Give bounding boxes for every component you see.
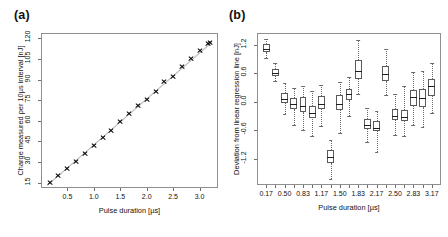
whisker-lower (377, 131, 378, 151)
whisker-lower (331, 163, 332, 179)
whisker-cap-upper (384, 49, 388, 50)
data-point (144, 96, 150, 102)
median-line (318, 104, 325, 105)
data-point (117, 118, 123, 124)
panel-a-label: (a) (14, 8, 30, 22)
boxplot (272, 0, 279, 237)
median-line (364, 125, 371, 126)
whisker-cap-lower (292, 125, 296, 126)
median-line (410, 97, 417, 98)
whisker-cap-upper (329, 140, 333, 141)
data-point (91, 142, 97, 148)
boxplot (419, 0, 426, 237)
whisker-upper (340, 82, 341, 95)
whisker-upper (404, 86, 405, 110)
box-iqr (401, 110, 408, 121)
whisker-cap-lower (310, 136, 314, 137)
box-iqr (428, 79, 435, 96)
median-line (392, 116, 399, 117)
median-line (281, 99, 288, 100)
panel-a-x-tick-label: 2.5 (168, 193, 178, 200)
boxplot (410, 0, 417, 237)
panel-b-y-tickmark (254, 73, 257, 74)
data-point (170, 73, 176, 79)
panel-a-y-tickmark (38, 183, 41, 184)
median-line (327, 157, 334, 158)
panel-b-y-tickmark (254, 159, 257, 160)
whisker-upper (367, 108, 368, 119)
whisker-cap-lower (412, 125, 416, 126)
panel-b-y-tickmark (254, 102, 257, 103)
median-line (336, 104, 343, 105)
whisker-lower (423, 107, 424, 127)
whisker-upper (285, 83, 286, 93)
median-line (373, 128, 380, 129)
panel-b-y-axis-title: Deviation from linear regression line [n… (232, 33, 241, 185)
panel-a-x-axis-title: Pulse duration [µs] (41, 206, 218, 215)
whisker-upper (358, 40, 359, 60)
panel-a-x-tick-label: 3.0 (195, 193, 205, 200)
median-line (382, 74, 389, 75)
boxplot (318, 0, 325, 237)
panel-b-label: (b) (229, 8, 246, 22)
whisker-upper (349, 77, 350, 88)
panel-b-y-tickmark (254, 130, 257, 131)
whisker-cap-upper (338, 82, 342, 83)
whisker-cap-upper (274, 63, 278, 64)
data-point (108, 127, 114, 133)
data-point (100, 135, 106, 141)
data-point (73, 158, 79, 164)
panel-a-y-tickmark (38, 80, 41, 81)
whisker-cap-upper (412, 72, 416, 73)
whisker-upper (395, 94, 396, 109)
whisker-cap-upper (292, 88, 296, 89)
whisker-lower (358, 79, 359, 94)
panel-b-x-axis-title: Pulse duration [µs] (257, 203, 441, 212)
panel-a-x-tickmark (94, 188, 95, 191)
panel-a-y-tickmark (38, 59, 41, 60)
data-point (207, 40, 213, 46)
whisker-cap-upper (421, 71, 425, 72)
whisker-cap-lower (393, 135, 397, 136)
whisker-cap-lower (375, 152, 379, 153)
whisker-cap-lower (366, 142, 370, 143)
boxplot (336, 0, 343, 237)
boxplot (401, 0, 408, 237)
median-line (355, 71, 362, 72)
whisker-cap-upper (320, 85, 324, 86)
whisker-cap-upper (283, 83, 287, 84)
whisker-lower (303, 112, 304, 130)
box-iqr (373, 121, 380, 131)
whisker-upper (423, 71, 424, 89)
panel-a-y-axis-title: Charge measured per 10µs interval [nJ] (16, 33, 25, 188)
box-iqr (355, 60, 362, 79)
boxplot (364, 0, 371, 237)
panel-a-y-tickmark (38, 121, 41, 122)
panel-a-x-tick-label: 0.5 (63, 193, 73, 200)
whisker-upper (432, 63, 433, 79)
panel-a-x-tickmark (67, 188, 68, 191)
whisker-cap-lower (283, 114, 287, 115)
data-point (153, 89, 159, 95)
median-line (300, 106, 307, 107)
whisker-cap-upper (301, 86, 305, 87)
whisker-lower (312, 119, 313, 136)
data-point (55, 173, 61, 179)
data-point (179, 63, 185, 69)
whisker-upper (303, 86, 304, 97)
whisker-cap-upper (430, 63, 434, 64)
whisker-cap-upper (356, 40, 360, 41)
boxplot (263, 0, 270, 237)
whisker-lower (349, 100, 350, 116)
whisker-cap-lower (356, 94, 360, 95)
whisker-cap-lower (402, 136, 406, 137)
whisker-cap-upper (310, 91, 314, 92)
data-point (126, 110, 132, 116)
whisker-lower (285, 103, 286, 114)
panel-a-y-tickmark (38, 100, 41, 101)
whisker-lower (294, 109, 295, 125)
panel-a-x-tick-label: 1.0 (89, 193, 99, 200)
panel-b-y-tickmark (254, 45, 257, 46)
median-line (401, 117, 408, 118)
data-point (47, 180, 53, 186)
